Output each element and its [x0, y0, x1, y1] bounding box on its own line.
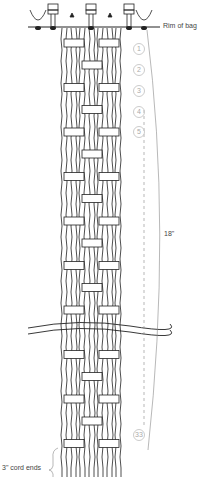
square-knot	[99, 128, 119, 136]
lark-head-clips	[30, 4, 152, 27]
square-knot	[64, 84, 84, 92]
square-knot	[99, 84, 119, 92]
square-knot	[64, 351, 84, 359]
square-knot	[99, 306, 119, 314]
row-number-33: 33	[133, 429, 145, 441]
square-knot	[99, 395, 119, 403]
square-knot	[99, 262, 119, 270]
square-knot	[82, 239, 102, 247]
square-knot	[99, 39, 119, 47]
row-number-4: 4	[133, 106, 145, 118]
square-knot	[99, 351, 119, 359]
length-label: 18"	[164, 230, 174, 237]
square-knot	[82, 373, 102, 381]
square-knot	[64, 128, 84, 136]
square-knot	[64, 262, 84, 270]
row-number-2: 2	[133, 64, 145, 76]
square-knot	[82, 417, 102, 425]
square-knot	[99, 440, 119, 448]
cord-ends-label: 3" cord ends	[2, 464, 41, 471]
square-knots	[64, 39, 119, 448]
square-knot	[82, 106, 102, 114]
measure-guides	[49, 30, 160, 477]
square-knot	[99, 217, 119, 225]
macrame-strap-diagram	[0, 0, 201, 477]
square-knot	[64, 395, 84, 403]
square-knot	[82, 284, 102, 292]
square-knot	[82, 150, 102, 158]
square-knot	[64, 39, 84, 47]
row-number-5: 5	[133, 126, 145, 138]
square-knot	[82, 61, 102, 69]
square-knot	[82, 195, 102, 203]
cords	[61, 28, 121, 477]
row-number-1: 1	[133, 43, 145, 55]
break-marks	[28, 322, 172, 335]
square-knot	[64, 306, 84, 314]
square-knot	[99, 173, 119, 181]
row-number-3: 3	[133, 85, 145, 97]
square-knot	[64, 173, 84, 181]
rim-of-bag-label: Rim of bag	[163, 22, 197, 29]
square-knot	[64, 440, 84, 448]
square-knot	[64, 217, 84, 225]
